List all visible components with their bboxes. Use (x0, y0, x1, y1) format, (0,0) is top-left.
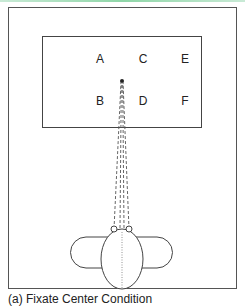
label-e: E (181, 52, 189, 66)
right-inner-gaze-line (123, 84, 124, 228)
label-c: C (139, 52, 148, 66)
gaze-lines (114, 82, 129, 229)
left-eye (111, 226, 117, 232)
figure-caption: (a) Fixate Center Condition (8, 292, 152, 306)
label-f: F (181, 94, 188, 108)
label-a: A (96, 52, 104, 66)
left-inner-gaze-line (120, 84, 121, 228)
right-eye (126, 226, 132, 232)
label-b: B (96, 94, 104, 108)
label-d: D (139, 94, 148, 108)
